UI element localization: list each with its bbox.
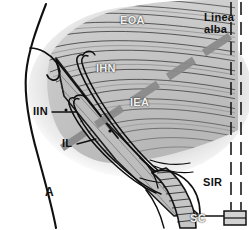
linea-alba-base-block	[224, 211, 246, 225]
anatomical-figure: EOA Linea alba IHN IEA IIN IL SIR SC A	[0, 0, 249, 230]
anatomy-illustration	[0, 0, 249, 230]
